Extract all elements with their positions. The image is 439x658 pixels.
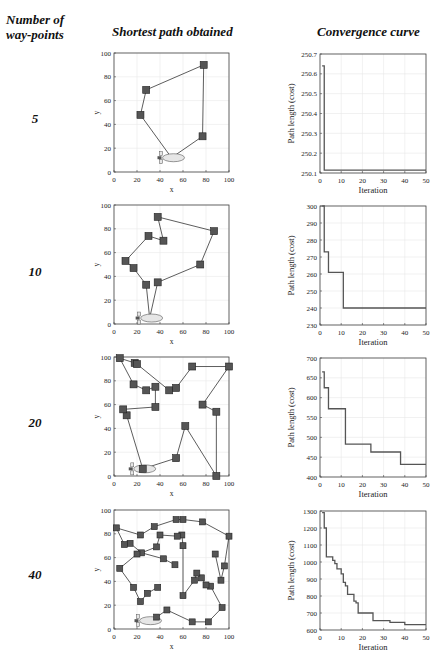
y-axis-label: y: [92, 414, 101, 418]
waypoint-marker: [121, 542, 127, 548]
x-tick-label: 60: [180, 480, 188, 488]
y-axis-label: Path length (cost): [286, 540, 296, 600]
x-tick-label: 20: [359, 634, 367, 642]
y-tick-label: 80: [104, 377, 112, 385]
waypoint-marker: [180, 543, 186, 549]
y-tick-label: 240: [307, 305, 318, 313]
y-tick-label: 20: [104, 449, 112, 457]
waypoint-marker: [219, 605, 225, 611]
waypoint-marker: [213, 473, 220, 480]
y-tick-label: 250.5: [301, 90, 317, 98]
x-tick-label: 10: [338, 177, 346, 185]
waypoint-marker: [166, 387, 173, 394]
x-tick-label: 80: [203, 633, 211, 641]
x-tick-label: 60: [180, 328, 188, 336]
x-tick-label: 50: [423, 177, 431, 185]
x-axis-label: Iteration: [359, 185, 389, 195]
waypoint-marker: [134, 551, 140, 557]
waypoint-marker: [173, 455, 180, 462]
y-tick-label: 80: [104, 225, 112, 233]
x-tick-label: 60: [180, 176, 188, 184]
y-tick-label: 260: [307, 271, 318, 279]
y-tick-label: 40: [104, 578, 112, 586]
convergence-plot-20: 01020304050400450500550600650700Iteratio…: [286, 355, 430, 500]
y-tick-label: 1000: [303, 559, 318, 567]
x-tick-label: 30: [380, 634, 388, 642]
waypoint-marker: [154, 544, 160, 550]
x-tick-label: 20: [134, 328, 142, 336]
x-tick-label: 50: [423, 481, 431, 489]
x-tick-label: 20: [134, 480, 142, 488]
x-axis-label: Iteration: [359, 642, 389, 652]
waypoint-marker: [172, 562, 178, 568]
waypoint-marker: [226, 363, 233, 370]
waypoint-marker: [143, 86, 150, 93]
waypoint-marker: [164, 607, 170, 613]
waypoint-marker: [143, 387, 150, 394]
x-axis-label: x: [170, 642, 174, 651]
y-tick-label: 100: [101, 202, 112, 210]
waypoint-marker: [199, 133, 206, 140]
y-tick-label: 290: [307, 220, 318, 228]
waypoint-marker: [139, 465, 146, 472]
y-tick-label: 250.1: [301, 170, 317, 178]
x-tick-label: 50: [423, 634, 431, 642]
airship-icon: [158, 152, 185, 164]
y-tick-label: 100: [101, 507, 112, 515]
waypoint-marker: [189, 619, 195, 625]
x-tick-label: 40: [157, 176, 165, 184]
y-tick-label: 0: [108, 473, 112, 481]
y-axis-label: Path length (cost): [286, 235, 296, 295]
y-tick-label: 80: [104, 73, 112, 81]
x-axis-label: x: [170, 337, 174, 346]
y-tick-label: 20: [104, 145, 112, 153]
waypoint-marker: [154, 279, 161, 286]
waypoint-marker: [155, 584, 161, 590]
y-axis-label: y: [92, 567, 101, 571]
x-tick-label: 40: [157, 480, 165, 488]
x-tick-label: 0: [112, 176, 116, 184]
waypoint-marker: [130, 265, 137, 272]
x-tick-label: 40: [157, 328, 165, 336]
y-tick-label: 60: [104, 249, 112, 257]
convergence-curve-line: [322, 66, 426, 170]
waypoint-marker: [182, 423, 189, 430]
y-tick-label: 300: [307, 203, 318, 211]
x-tick-label: 0: [112, 480, 116, 488]
waypoint-marker: [130, 381, 137, 388]
y-tick-label: 250.3: [301, 130, 317, 138]
y-tick-label: 60: [104, 554, 112, 562]
x-tick-label: 40: [401, 177, 409, 185]
y-axis-label: y: [92, 262, 101, 266]
y-tick-label: 280: [307, 237, 318, 245]
y-tick-label: 20: [104, 602, 112, 610]
x-tick-label: 40: [401, 481, 409, 489]
path-plot-5: 020406080100020406080100xy: [92, 50, 235, 195]
waypoint-marker: [116, 355, 123, 362]
waypoint-marker: [205, 619, 211, 625]
y-tick-label: 20: [104, 297, 112, 305]
y-tick-label: 250.7: [301, 51, 317, 59]
y-tick-label: 250: [307, 288, 318, 296]
y-tick-label: 700: [307, 610, 318, 618]
y-tick-label: 250.2: [301, 150, 317, 158]
x-tick-label: 0: [318, 634, 322, 642]
y-axis-label: y: [92, 110, 101, 114]
x-tick-label: 20: [359, 329, 367, 337]
path-plot-20: 020406080100020406080100xy: [92, 354, 235, 499]
y-tick-label: 500: [307, 434, 318, 442]
x-tick-label: 0: [112, 328, 116, 336]
waypoint-marker: [154, 614, 160, 620]
waypoint-marker: [120, 406, 127, 413]
waypoint-marker: [213, 408, 220, 415]
x-tick-label: 100: [224, 176, 235, 184]
x-tick-label: 50: [423, 329, 431, 337]
waypoint-marker: [134, 361, 141, 368]
x-axis-label: Iteration: [359, 337, 389, 347]
y-tick-label: 1200: [303, 525, 318, 533]
x-tick-label: 10: [338, 329, 346, 337]
x-tick-label: 30: [380, 329, 388, 337]
y-tick-label: 100: [101, 50, 112, 58]
y-axis-label: Path length (cost): [286, 387, 296, 447]
waypoint-marker: [154, 213, 161, 220]
